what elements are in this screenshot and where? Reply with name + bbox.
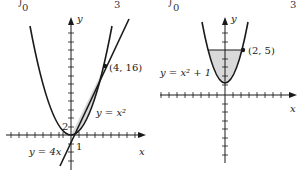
denominator-left: 3 bbox=[114, 0, 120, 10]
right-graph: y x (2, 5) y = x² + 1 bbox=[159, 13, 297, 163]
left-line-4x bbox=[60, 19, 129, 166]
left-y-axis-label: y bbox=[76, 13, 83, 24]
left-graph: y x 1 2 (4, 16) y = x² y = 4x bbox=[6, 13, 146, 170]
right-y-axis-arrow-icon bbox=[222, 17, 228, 25]
right-x-axis-arrow-icon bbox=[289, 92, 297, 98]
right-point-label: (2, 5) bbox=[248, 45, 275, 56]
left-x-axis-label: x bbox=[139, 146, 145, 157]
left-y-tick-label: 2 bbox=[62, 121, 68, 132]
left-curve-label: y = x² bbox=[95, 107, 126, 118]
right-x-axis-label: x bbox=[290, 103, 296, 114]
figure-canvas: ∫ 0 3 ∫ 0 3 bbox=[0, 0, 298, 173]
left-intersection-point bbox=[103, 64, 107, 68]
left-y-axis-arrow-icon bbox=[68, 17, 74, 25]
right-curve-label: y = x² + 1 bbox=[159, 67, 211, 78]
integral-lower-left: 0 bbox=[22, 2, 28, 13]
left-line-label: y = 4x bbox=[28, 146, 62, 157]
left-x-axis-arrow-icon bbox=[138, 132, 146, 138]
left-point-label: (4, 16) bbox=[109, 62, 142, 73]
top-formula: ∫ 0 3 ∫ 0 3 bbox=[18, 0, 296, 13]
denominator-right: 3 bbox=[290, 0, 296, 10]
left-shaded-region bbox=[71, 66, 105, 135]
left-x-tick-label: 1 bbox=[76, 141, 82, 152]
integral-lower-right: 0 bbox=[173, 2, 179, 13]
right-intersection-point bbox=[241, 48, 245, 52]
right-y-axis-label: y bbox=[230, 13, 237, 24]
